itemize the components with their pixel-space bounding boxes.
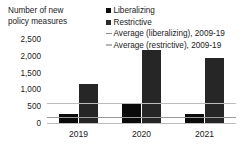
y-axis-tick-label: 1,000 xyxy=(21,86,42,94)
y-axis-tick-labels: 05001,0001,5002,0002,500 xyxy=(0,40,45,124)
x-axis-tick-label: 2020 xyxy=(132,128,151,140)
average-line xyxy=(47,103,236,105)
plot-area xyxy=(47,40,236,124)
bar xyxy=(142,50,161,124)
x-axis-baseline xyxy=(47,123,236,124)
y-axis-tick-label: 500 xyxy=(27,103,41,111)
bar xyxy=(205,58,224,124)
legend-label: Restrictive xyxy=(114,18,152,27)
legend-label: Average (liberalizing), 2009-19 xyxy=(114,29,225,38)
legend-label: Liberalizing xyxy=(114,6,155,15)
filled-square-icon xyxy=(106,8,111,13)
x-axis-tick-label: 2021 xyxy=(195,128,214,140)
bar-group xyxy=(185,40,224,124)
average-line xyxy=(47,117,236,119)
y-axis-title: Number of new policy measures xyxy=(8,6,103,27)
bar-group xyxy=(122,40,161,124)
filled-square-icon xyxy=(106,20,111,25)
y-axis-tick-label: 2,500 xyxy=(21,36,42,44)
y-axis-tick-label: 2,000 xyxy=(21,53,42,61)
chart-container: Number of new policy measures Liberalizi… xyxy=(0,0,243,147)
bar xyxy=(122,103,141,124)
legend-item-average-liberalizing: Average (liberalizing), 2009-19 xyxy=(106,28,242,39)
legend-item-restrictive: Restrictive xyxy=(106,17,242,28)
legend-item-liberalizing: Liberalizing xyxy=(106,5,242,16)
y-axis-tick-label: 1,500 xyxy=(21,70,42,78)
x-axis-tick-label: 2019 xyxy=(69,128,88,140)
bar-groups xyxy=(47,40,236,124)
horizontal-line-icon xyxy=(106,33,112,35)
bar-group xyxy=(59,40,98,124)
x-axis-tick-labels: 201920202021 xyxy=(47,128,236,142)
y-axis-tick-label: 0 xyxy=(36,120,41,128)
